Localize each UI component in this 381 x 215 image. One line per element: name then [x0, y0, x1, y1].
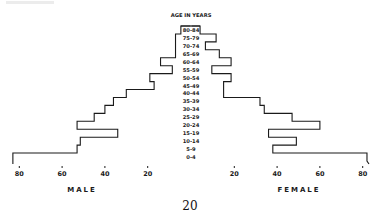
male-axis-label: MALE	[67, 186, 97, 194]
male-bar-35-39	[113, 97, 190, 105]
female-tick-label-40: 40	[273, 170, 283, 178]
age-label-0-4: 0-4	[186, 154, 196, 160]
male-tick-label-60: 60	[58, 170, 68, 178]
female-tick-label-20: 20	[230, 170, 240, 178]
age-label-15-19: 15-19	[183, 130, 200, 136]
female-tick-label-80: 80	[358, 170, 368, 178]
male-bar-40-44	[126, 90, 190, 98]
male-bar-15-19	[118, 129, 191, 137]
female-axis-label: FEMALE	[277, 186, 320, 194]
male-bar-20-24	[77, 121, 190, 129]
age-label-65-69: 65-69	[183, 51, 200, 57]
male-tick-label-40: 40	[100, 170, 110, 178]
female-bar-15-19	[192, 129, 269, 137]
female-bar-25-29	[192, 113, 293, 121]
age-label-75-79: 75-79	[183, 35, 200, 41]
male-bar-10-14	[80, 137, 190, 145]
age-label-80-84: 80-84	[183, 27, 200, 33]
age-label-5-9: 5-9	[186, 146, 196, 152]
female-tick-label-60: 60	[315, 170, 325, 178]
male-bars	[13, 26, 200, 164]
page-number: 20	[182, 199, 197, 213]
male-bar-25-29	[94, 113, 190, 121]
age-label-40-44: 40-44	[183, 90, 200, 96]
female-bars	[192, 26, 369, 164]
male-bar-30-34	[105, 105, 191, 113]
female-bar-35-39	[192, 97, 260, 105]
age-labels: 80-8475-7970-7465-6960-6455-5950-5445-49…	[183, 27, 200, 160]
male-tick-label-20: 20	[143, 170, 153, 178]
age-label-35-39: 35-39	[183, 98, 200, 104]
female-bar-0-4	[192, 153, 367, 161]
age-label-20-24: 20-24	[183, 122, 200, 128]
chart-title: AGE IN YEARS	[171, 12, 212, 18]
female-bar-20-24	[192, 121, 320, 129]
age-label-45-49: 45-49	[183, 83, 200, 89]
male-bar-0-4	[13, 153, 191, 161]
female-bar-10-14	[192, 137, 297, 145]
female-bar-5-9	[192, 145, 273, 153]
age-label-10-14: 10-14	[183, 138, 200, 144]
population-pyramid-chart: AGE IN YEARS 80-8475-7970-7465-6960-6455…	[0, 0, 381, 215]
age-label-30-34: 30-34	[183, 106, 200, 112]
female-bar-30-34	[192, 105, 265, 113]
age-label-70-74: 70-74	[183, 43, 200, 49]
age-label-60-64: 60-64	[183, 59, 200, 65]
age-label-25-29: 25-29	[183, 114, 200, 120]
x-axis-ticks: 8060402020406080	[15, 166, 368, 178]
age-label-50-54: 50-54	[183, 75, 200, 81]
male-bar-5-9	[77, 145, 190, 153]
age-label-55-59: 55-59	[183, 67, 200, 73]
male-tick-label-80: 80	[15, 170, 25, 178]
